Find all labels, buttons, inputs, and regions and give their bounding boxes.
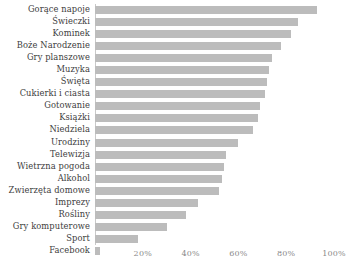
- bar-row: Gry planszowe: [95, 52, 334, 64]
- bar: [95, 42, 281, 50]
- bar: [95, 126, 253, 134]
- x-tick-label: 100%: [322, 249, 346, 258]
- bar: [95, 139, 238, 147]
- bar: [95, 151, 226, 159]
- bar: [95, 6, 317, 14]
- category-label: Alkohol: [58, 172, 90, 184]
- category-label: Kominek: [53, 27, 90, 39]
- bar: [95, 175, 222, 183]
- x-tick-label: 20%: [134, 249, 152, 258]
- category-label: Gry planszowe: [27, 51, 90, 63]
- category-label: Niedziela: [49, 123, 90, 135]
- category-label: Świeczki: [52, 15, 90, 27]
- bar: [95, 235, 138, 243]
- bar: [95, 163, 224, 171]
- bar-row: Świeczki: [95, 16, 334, 28]
- x-tick-label: 40%: [181, 249, 199, 258]
- category-label: Urodziny: [51, 136, 90, 148]
- bar-row: Imprezy: [95, 197, 334, 209]
- bar-row: Gry komputerowe: [95, 221, 334, 233]
- category-label: Książki: [59, 111, 90, 123]
- category-label: Cukierki i ciasta: [20, 87, 90, 99]
- bar-row: Wietrzna pogoda: [95, 161, 334, 173]
- category-label: Boże Narodzenie: [17, 39, 90, 51]
- bar-row: Gotowanie: [95, 100, 334, 112]
- bar-row: Telewizja: [95, 149, 334, 161]
- category-label: Telewizja: [50, 148, 90, 160]
- bar: [95, 211, 186, 219]
- category-label: Wietrzna pogoda: [17, 160, 90, 172]
- category-label: Imprezy: [55, 196, 90, 208]
- bar: [95, 90, 265, 98]
- bar: [95, 223, 167, 231]
- category-label: Zwierzęta domowe: [9, 184, 90, 196]
- category-label: Gorące napoje: [28, 3, 90, 15]
- bar: [95, 66, 269, 74]
- bar-row: Cukierki i ciasta: [95, 88, 334, 100]
- category-label: Święta: [61, 75, 90, 87]
- bar: [95, 187, 219, 195]
- bar-row: Święta: [95, 76, 334, 88]
- bar-row: Kominek: [95, 28, 334, 40]
- category-label: Muzyka: [57, 63, 90, 75]
- x-tick-label: 80%: [277, 249, 295, 258]
- x-tick-label: 60%: [229, 249, 247, 258]
- bar-rows: Gorące napojeŚwieczkiKominekBoże Narodze…: [95, 4, 334, 257]
- bar: [95, 114, 258, 122]
- category-label: Sport: [66, 232, 90, 244]
- category-label: Gry komputerowe: [13, 220, 90, 232]
- bar-row: Książki: [95, 112, 334, 124]
- bar-row: Rośliny: [95, 209, 334, 221]
- category-label: Gotowanie: [44, 99, 90, 111]
- bar-row: Urodziny: [95, 137, 334, 149]
- bar-chart: Gorące napojeŚwieczkiKominekBoże Narodze…: [0, 0, 358, 271]
- bar-row: Zwierzęta domowe: [95, 185, 334, 197]
- category-label: Rośliny: [58, 208, 90, 220]
- bar-row: Boże Narodzenie: [95, 40, 334, 52]
- bar-row: Muzyka: [95, 64, 334, 76]
- x-axis: 20%40%60%80%100%: [95, 249, 334, 265]
- bar: [95, 18, 298, 26]
- bar-row: Sport: [95, 233, 334, 245]
- bar-row: Niedziela: [95, 124, 334, 136]
- bar: [95, 102, 260, 110]
- plot-area: Gorące napojeŚwieczkiKominekBoże Narodze…: [95, 4, 334, 245]
- bar: [95, 30, 291, 38]
- category-label: Facebook: [49, 244, 90, 256]
- bar: [95, 199, 198, 207]
- bar: [95, 78, 267, 86]
- bar: [95, 54, 272, 62]
- bar-row: Gorące napoje: [95, 4, 334, 16]
- bar-row: Alkohol: [95, 173, 334, 185]
